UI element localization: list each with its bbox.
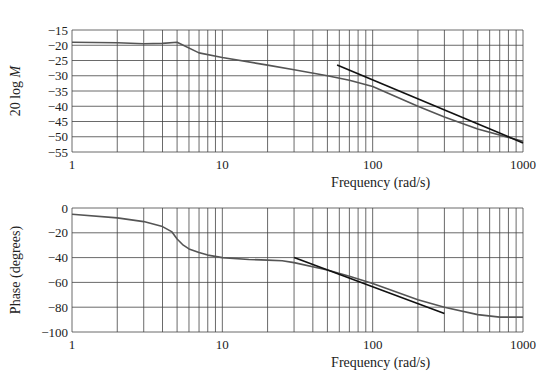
bode-plot: −15−20−25−30−35−40−45−50−551101001000Fre… (0, 0, 559, 385)
y-tick-label: −60 (48, 275, 68, 290)
y-tick-label: −100 (41, 325, 68, 340)
y-tick-label: −20 (48, 38, 68, 53)
y-tick-label: −80 (48, 300, 68, 315)
y-tick-label: −20 (48, 225, 68, 240)
x-tick-label: 1 (69, 337, 76, 352)
y-tick-label: −40 (48, 99, 68, 114)
y-tick-label: −50 (48, 129, 68, 144)
magnitude-plot: −15−20−25−30−35−40−45−50−551101001000Fre… (8, 23, 536, 192)
asymptote-line (294, 258, 444, 314)
response-curve (72, 42, 523, 141)
x-tick-label: 100 (363, 157, 383, 172)
asymptote-line (337, 65, 523, 143)
x-tick-label: 100 (363, 337, 383, 352)
x-axis-label: Frequency (rad/s) (331, 355, 430, 371)
y-tick-label: −55 (48, 145, 68, 160)
y-tick-label: −25 (48, 53, 68, 68)
y-axis-label: 20 log M (8, 64, 23, 116)
x-tick-label: 1000 (510, 337, 536, 352)
y-tick-label: −30 (48, 68, 68, 83)
y-tick-label: −15 (48, 23, 68, 38)
y-tick-label: 0 (62, 201, 69, 216)
y-tick-label: −35 (48, 84, 68, 99)
x-tick-label: 1000 (510, 157, 536, 172)
y-axis-label: Phase (degrees) (8, 226, 24, 315)
y-tick-label: −40 (48, 250, 68, 265)
x-tick-label: 1 (69, 157, 76, 172)
x-axis-label: Frequency (rad/s) (331, 175, 430, 191)
phase-plot: 0−20−40−60−80−1001101001000Frequency (ra… (8, 201, 536, 372)
response-curve (72, 214, 523, 317)
x-tick-label: 10 (216, 337, 229, 352)
y-tick-label: −45 (48, 114, 68, 129)
x-tick-label: 10 (216, 157, 229, 172)
